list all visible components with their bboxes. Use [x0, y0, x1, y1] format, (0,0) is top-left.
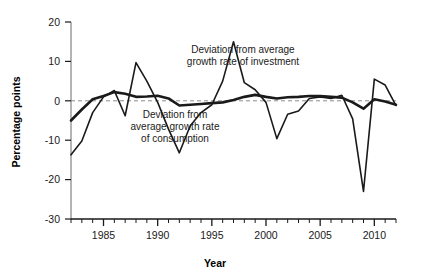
y-axis-title: Percentage points — [10, 76, 22, 167]
y-axis-tick-label: 0 — [54, 95, 60, 107]
x-axis-tick-label: 1990 — [146, 229, 170, 241]
x-axis-tick-label: 1985 — [92, 229, 116, 241]
y-axis-tick-label: -20 — [45, 173, 60, 185]
investment-label: Deviation from averagegrowth rate of inv… — [187, 44, 299, 67]
line-chart: 20100-10-20-30 198519901995200020052010 … — [0, 0, 428, 275]
x-axis-tick-label: 2010 — [363, 229, 387, 241]
consumption-label: Deviation fromaverage growth rateof cons… — [131, 109, 220, 144]
annotation-line: average growth rate — [131, 121, 220, 132]
x-axis-tick-label: 1995 — [200, 229, 224, 241]
annotation-line: Deviation from average — [191, 44, 295, 55]
annotation-line: of consumption — [141, 133, 209, 144]
y-axis-tick-label: 20 — [48, 16, 60, 28]
annotation-line: Deviation from — [143, 109, 207, 120]
x-axis-tick-label: 2000 — [254, 229, 278, 241]
y-axis-tick-label: -10 — [45, 134, 60, 146]
x-axis-title: Year — [204, 257, 226, 269]
y-axis-tick-label: -30 — [45, 213, 60, 225]
x-axis-tick-label: 2005 — [308, 229, 332, 241]
y-axis-tick-label: 10 — [48, 55, 60, 67]
chart-figure: 20100-10-20-30 198519901995200020052010 … — [0, 0, 428, 275]
annotation-line: growth rate of investment — [187, 56, 299, 67]
